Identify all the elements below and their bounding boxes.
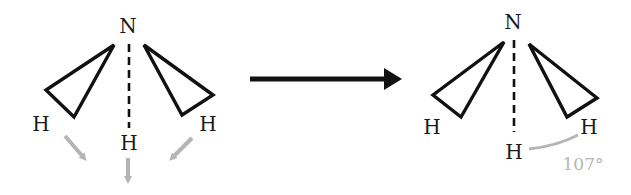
left-molecule-wedge-bond-right: [144, 45, 213, 115]
right-nitrogen-label: N: [504, 10, 522, 34]
right-molecule-h-center: H: [505, 140, 522, 164]
right-molecule-h-right: H: [580, 115, 597, 139]
left-nitrogen-label: N: [119, 14, 137, 38]
left-molecule-wedge-bond-left: [46, 45, 114, 117]
left-molecule: N H H H: [32, 14, 216, 180]
force-arrow-right-icon: [172, 138, 192, 158]
left-molecule-h-center: H: [120, 131, 137, 155]
bond-angle-arc: [529, 135, 578, 149]
right-molecule: N H H H 107°: [423, 10, 603, 174]
reaction-arrow-icon: [250, 68, 402, 90]
bond-angle-label: 107°: [563, 154, 604, 174]
left-molecule-h-left: H: [32, 112, 49, 136]
right-molecule-h-left: H: [423, 115, 440, 139]
force-arrow-left-icon: [65, 136, 84, 158]
left-molecule-h-right: H: [199, 112, 216, 136]
diagram-canvas: N H H H N H H H: [0, 0, 631, 195]
right-molecule-wedge-bond-right: [529, 44, 597, 117]
right-molecule-wedge-bond-left: [433, 42, 504, 117]
